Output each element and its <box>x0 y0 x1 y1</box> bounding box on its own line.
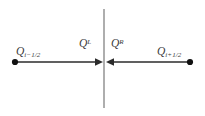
left-arrowhead-icon <box>95 58 103 65</box>
label-q-right-flux: QR <box>111 34 124 50</box>
label-q-left-state-subscript: i−1/2 <box>24 51 40 59</box>
right-node-dot <box>187 59 193 65</box>
left-node-dot <box>12 59 18 65</box>
label-q-right-flux-superscript: R <box>119 38 123 46</box>
label-q-right-state-subscript: i+1/2 <box>165 51 181 59</box>
label-q-left-flux: QL <box>79 34 91 50</box>
right-arrowhead-icon <box>106 58 114 65</box>
label-q-left-state: Qi−1/2 <box>16 42 40 59</box>
riemann-interface-diagram: Qi−1/2 QL QR Qi+1/2 <box>0 0 205 116</box>
label-q-right-state: Qi+1/2 <box>157 42 181 59</box>
label-q-left-flux-superscript: L <box>87 38 91 46</box>
